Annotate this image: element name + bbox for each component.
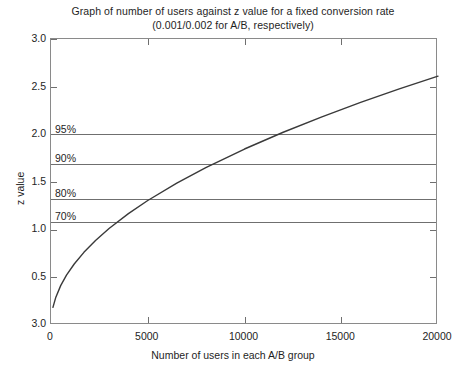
x-axis-label: Number of users in each A/B group	[0, 349, 466, 361]
x-tick-label-4: 20000	[407, 330, 466, 342]
y-tick-label-2: 2.0	[6, 127, 46, 139]
x-tick-label-3: 15000	[310, 330, 370, 342]
y-tick-label-5: 0.5	[6, 270, 46, 282]
x-tick-label-0: 0	[20, 330, 80, 342]
y-tick-label-3: 1.5	[6, 175, 46, 187]
y-axis-label: z value	[14, 172, 26, 205]
y-tick-label-6: 3.0	[6, 317, 46, 329]
chart-title: Graph of number of users against z value…	[0, 4, 466, 18]
chart-figure: Graph of number of users against z value…	[0, 0, 466, 373]
plot-area: 95% 90% 80% 70%	[50, 38, 437, 324]
chart-subtitle: (0.001/0.002 for A/B, respectively)	[0, 18, 466, 32]
z-value-curve	[51, 39, 438, 325]
y-tick-label-1: 2.5	[6, 80, 46, 92]
y-tick-label-4: 1.0	[6, 222, 46, 234]
chart-title-block: Graph of number of users against z value…	[0, 4, 466, 32]
x-tick-label-1: 5000	[117, 330, 177, 342]
y-tick-label-0: 3.0	[6, 32, 46, 44]
x-tick-label-2: 10000	[214, 330, 274, 342]
